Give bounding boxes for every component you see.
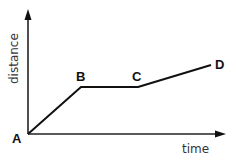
point-label-b: B bbox=[76, 69, 85, 84]
point-label-a: A bbox=[12, 131, 22, 146]
y-axis-arrow-icon bbox=[25, 9, 32, 20]
y-axis-label: distance bbox=[7, 33, 21, 84]
point-label-d: D bbox=[215, 57, 224, 72]
graph-line bbox=[28, 65, 211, 134]
x-axis-arrow-icon bbox=[215, 131, 226, 138]
distance-time-graph: distance time A B C D bbox=[0, 0, 236, 163]
point-label-c: C bbox=[132, 69, 142, 84]
x-axis-label: time bbox=[182, 142, 209, 156]
